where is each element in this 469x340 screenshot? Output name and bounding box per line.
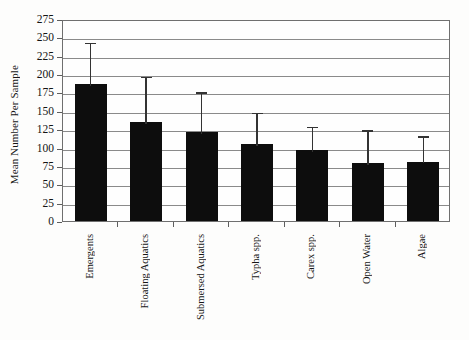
- error-bar-line: [90, 43, 91, 86]
- x-tick-mark: [173, 222, 174, 227]
- x-tick-label: Algae: [416, 234, 427, 334]
- bar-group: [407, 21, 439, 221]
- error-bar-line: [423, 136, 424, 163]
- error-bar-cap: [141, 77, 152, 78]
- y-tick-mark: [57, 222, 62, 223]
- bar: [407, 162, 439, 221]
- y-tick-label: 275: [18, 14, 54, 26]
- bar-group: [352, 21, 384, 221]
- x-tick-label-text: Emergents: [84, 234, 95, 279]
- bar-chart-figure: Mean Number Per Sample 02550751001251501…: [0, 0, 469, 340]
- error-bar-cap: [307, 127, 318, 128]
- error-bar-line: [367, 130, 368, 165]
- bar: [130, 122, 162, 221]
- error-bar-cap: [196, 92, 207, 93]
- x-tick-label: Emergents: [84, 234, 95, 334]
- x-tick-mark: [339, 222, 340, 227]
- bar-group: [130, 21, 162, 221]
- x-tick-label-text: Submersed Aquatics: [195, 234, 206, 320]
- error-bar-cap: [362, 130, 373, 131]
- y-axis-title-text: Mean Number Per Sample: [8, 65, 20, 184]
- error-bar-line: [201, 92, 202, 134]
- bar-group: [75, 21, 107, 221]
- x-tick-label: Open Water: [361, 234, 372, 334]
- x-tick-label-text: Floating Aquatics: [139, 234, 150, 308]
- bar: [75, 84, 107, 221]
- bar: [352, 163, 384, 221]
- bar-group: [296, 21, 328, 221]
- x-tick-label: Submersed Aquatics: [195, 234, 206, 334]
- bar-group: [186, 21, 218, 221]
- x-tick-label-text: Algae: [416, 234, 427, 259]
- plot-area: [62, 20, 450, 222]
- bar: [186, 132, 218, 221]
- error-bar-line: [256, 113, 257, 146]
- x-tick-mark: [395, 222, 396, 227]
- x-tick-mark: [228, 222, 229, 227]
- y-axis-title: Mean Number Per Sample: [2, 40, 26, 210]
- x-tick-mark: [284, 222, 285, 227]
- error-bar-line: [145, 77, 146, 124]
- bar: [241, 144, 273, 221]
- y-tick-label: 0: [18, 216, 54, 228]
- bar-group: [241, 21, 273, 221]
- x-tick-label: Carex spp.: [305, 234, 316, 334]
- x-tick-label-text: Carex spp.: [305, 234, 316, 279]
- error-bar-line: [312, 127, 313, 152]
- error-bar-cap: [85, 43, 96, 44]
- x-tick-label-text: Typha spp.: [250, 234, 261, 280]
- error-bar-cap: [252, 113, 263, 114]
- bar: [296, 150, 328, 221]
- x-tick-mark: [117, 222, 118, 227]
- x-tick-label-text: Open Water: [361, 234, 372, 284]
- x-tick-label: Floating Aquatics: [139, 234, 150, 334]
- error-bar-cap: [418, 136, 429, 137]
- x-tick-label: Typha spp.: [250, 234, 261, 334]
